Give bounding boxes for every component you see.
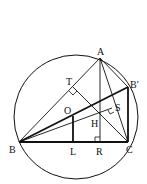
right-angle-mark-s (108, 110, 114, 114)
altitude-ct (73, 87, 128, 142)
label-a: A (97, 46, 105, 57)
label-c: C (126, 144, 133, 155)
label-h: H (91, 118, 98, 129)
label-l: L (70, 146, 76, 157)
geometry-diagram: A B C B′ O H L R T S (0, 0, 147, 184)
label-s: S (115, 102, 121, 113)
label-b-prime: B′ (130, 79, 139, 90)
side-ab (19, 58, 100, 142)
label-t: T (66, 76, 72, 87)
right-angle-mark-t (69, 91, 77, 95)
label-o: O (64, 105, 71, 116)
label-b: B (9, 144, 16, 155)
segment-ab-prime (100, 58, 128, 87)
label-r: R (96, 146, 103, 157)
